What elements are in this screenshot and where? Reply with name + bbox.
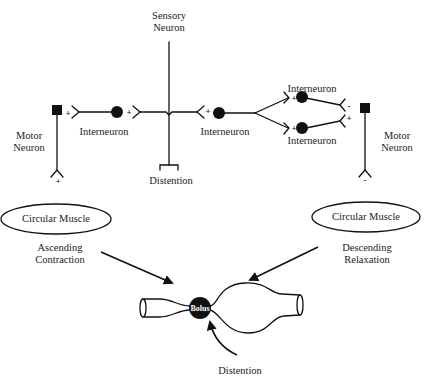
descending-relaxation-arrow — [250, 247, 318, 280]
right-motor-neuron-soma — [360, 103, 370, 113]
sign-upper-input: + — [291, 94, 296, 103]
lower-branch — [255, 113, 288, 128]
sign-motor-left-input: + — [65, 109, 70, 118]
circular-muscle-left-label: Circular Muscle — [22, 213, 90, 225]
distention-arrow — [210, 322, 237, 355]
lower-interneuron-axon — [306, 121, 340, 128]
left-motor-neuron-soma — [52, 105, 62, 115]
sign-sensory-right-output: + — [205, 107, 210, 116]
sign-motor-right-from-lower: + — [346, 114, 351, 123]
distention-bottom-label: Distention — [218, 365, 262, 377]
motor-neuron-right-label: Motor Neuron — [381, 130, 413, 154]
sensory-neuron-label: Sensory Neuron — [152, 10, 186, 34]
sensory-receptor-ending — [160, 165, 178, 170]
sensory-left-synapse — [133, 106, 140, 118]
motor-neuron-left-label: Motor Neuron — [13, 130, 45, 154]
left-interneuron-soma — [111, 106, 123, 118]
lower-interneuron-soma — [296, 122, 308, 134]
sign-motor-right-output: - — [364, 176, 367, 185]
descending-relaxation-label: Descending Relaxation — [342, 242, 392, 266]
center-right-interneuron-soma — [213, 107, 225, 119]
circular-muscle-right-label: Circular Muscle — [332, 211, 400, 223]
sign-lower-input: + — [291, 124, 296, 133]
lower-input-synapse — [284, 123, 289, 134]
reflex-diagram — [0, 0, 428, 392]
sign-motor-right-from-upper: - — [348, 102, 351, 111]
ascending-contraction-arrow — [101, 252, 172, 283]
upper-branch — [255, 98, 288, 113]
upper-interneuron-axon — [306, 98, 340, 105]
distention-top-label: Distention — [149, 175, 193, 187]
interneuron-lower-right-label: Interneuron — [288, 135, 337, 147]
left-interneuron-synapse — [72, 106, 79, 118]
upper-to-motor-synapse — [340, 99, 345, 111]
interneuron-center-right-label: Interneuron — [201, 126, 250, 138]
sign-interneuron-left-input: + — [126, 108, 131, 117]
gut-tube — [140, 283, 303, 333]
ascending-contraction-label: Ascending Contraction — [35, 242, 85, 266]
lower-to-motor-synapse — [340, 115, 345, 127]
interneuron-left-label: Interneuron — [80, 126, 129, 138]
sensory-right-synapse — [197, 106, 204, 118]
sign-motor-left-output: + — [55, 177, 60, 186]
bolus-label: Bolus — [190, 304, 209, 313]
